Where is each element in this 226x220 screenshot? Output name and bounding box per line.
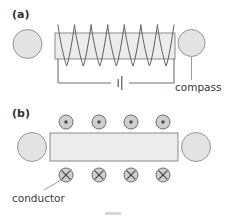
panel-a-label: (a) xyxy=(12,8,29,21)
figure-root: (a) compass (b) xyxy=(0,0,226,220)
compass-label: compass xyxy=(175,81,221,93)
electromagnet-diagram: (a) compass (b) xyxy=(0,0,226,220)
panel-a: (a) compass xyxy=(12,8,221,93)
battery-symbol xyxy=(118,76,122,90)
page-artifact xyxy=(105,212,121,215)
panel-a-left-pole-circle xyxy=(13,30,42,59)
panel-b: (b) conductor xyxy=(12,107,211,204)
panel-b-left-pole-circle xyxy=(18,133,47,162)
panel-b-right-pole-circle xyxy=(182,133,211,162)
panel-b-conductor-bar xyxy=(50,133,178,161)
panel-a-circuit-wires xyxy=(58,59,174,83)
field-out-of-page-symbols xyxy=(59,115,170,129)
compass-icon xyxy=(178,30,205,57)
conductor-leader-line xyxy=(44,180,61,190)
field-into-page-symbols xyxy=(59,168,170,182)
conductor-label: conductor xyxy=(12,192,65,204)
panel-b-label: (b) xyxy=(12,107,30,120)
